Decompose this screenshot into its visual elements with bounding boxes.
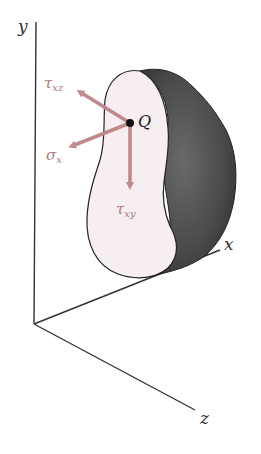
z-axis-label: z <box>199 408 210 428</box>
stress-diagram: Q τxz σx τxy y x z <box>0 0 261 454</box>
y-axis <box>34 22 36 324</box>
point-q-dot <box>126 119 134 127</box>
point-q-label: Q <box>138 112 151 131</box>
x-axis-label: x <box>224 234 234 254</box>
tau-xz-label: τxz <box>44 74 64 93</box>
sigma-x-label: σx <box>46 146 62 165</box>
y-axis-label: y <box>17 16 28 36</box>
z-axis <box>34 324 195 410</box>
